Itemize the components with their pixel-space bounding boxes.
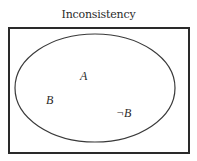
venn-diagram: A B ¬B (0, 0, 197, 161)
label-not-b: ¬B (116, 106, 132, 120)
label-b: B (46, 93, 54, 107)
label-a: A (79, 69, 88, 83)
universe-rectangle (9, 28, 189, 153)
set-ellipse (15, 34, 175, 142)
